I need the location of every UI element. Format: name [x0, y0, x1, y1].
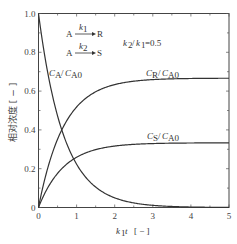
reaction-annotation-1: A k 1 R — [66, 22, 103, 39]
concentration-chart: 01234500.20.40.60.81.0 A k 1 R A k 2 S k… — [0, 0, 237, 244]
svg-text:S: S — [97, 48, 102, 58]
y-tick-label: 0 — [31, 203, 36, 213]
curve-cs-ca0 — [39, 143, 230, 208]
svg-text:A0: A0 — [168, 70, 179, 80]
svg-text:t: t — [125, 226, 128, 236]
reaction-annotation-2: A k 2 S — [66, 41, 102, 58]
x-axis-label: k 1 t [ − ] — [116, 226, 150, 238]
x-tick-label: 1 — [74, 211, 79, 221]
y-axis-label: 相对浓度 [ − ] — [7, 83, 18, 142]
svg-text:A0: A0 — [71, 70, 82, 80]
x-tick-label: 0 — [36, 211, 41, 221]
x-tick-label: 2 — [112, 211, 117, 221]
curve-label-cs: C S / C A0 — [147, 131, 179, 143]
x-tick-label: 3 — [151, 211, 156, 221]
svg-text:R: R — [97, 29, 103, 39]
svg-text:/: / — [132, 38, 135, 48]
rate-ratio-annotation: k 2 / k 1 =0.5 — [123, 38, 162, 50]
svg-text:/: / — [158, 68, 161, 78]
y-tick-label: 0.4 — [24, 125, 36, 135]
svg-text:A: A — [66, 48, 73, 58]
svg-text:[ − ]: [ − ] — [134, 226, 150, 236]
y-tick-label: 0.6 — [24, 86, 36, 96]
x-tick-label: 4 — [189, 211, 194, 221]
svg-text:2: 2 — [83, 43, 88, 53]
curve-label-ca: C A / C A0 — [49, 68, 82, 80]
svg-text:=0.5: =0.5 — [145, 38, 162, 48]
y-tick-label: 0.2 — [24, 164, 35, 174]
svg-text:A0: A0 — [168, 133, 179, 143]
svg-text:/: / — [61, 68, 64, 78]
y-tick-label: 0.8 — [24, 47, 36, 57]
svg-text:A: A — [66, 29, 73, 39]
y-tick-label: 1.0 — [24, 9, 36, 19]
svg-text:/: / — [158, 131, 161, 141]
curve-label-cr: C R / C A0 — [146, 68, 179, 80]
x-tick-label: 5 — [227, 211, 232, 221]
svg-text:1: 1 — [83, 24, 88, 34]
